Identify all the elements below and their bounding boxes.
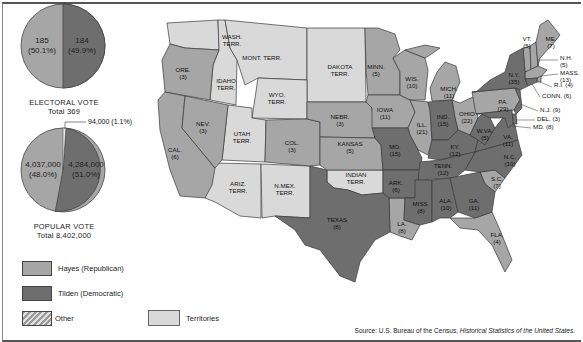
state-label-mich: MICH.(11) <box>440 85 458 99</box>
state-label-sc: S.C.(7) <box>491 175 503 189</box>
state-label-va: VA.(11) <box>503 133 514 147</box>
state-label-me: ME.(7) <box>545 35 556 49</box>
state-name: GA. <box>469 197 480 204</box>
state-votes: TERR. <box>274 189 295 196</box>
state-name: MISS. <box>413 200 430 207</box>
state-label-tenn: TENN.(12) <box>434 162 453 176</box>
state-votes: (5) <box>367 70 385 77</box>
state-label-ky: KY.(12) <box>449 143 460 157</box>
state-label-ga: GA.(11) <box>469 197 480 211</box>
state-votes: TERR. <box>328 70 353 77</box>
state-votes: (8) <box>397 227 406 234</box>
state-votes: (8) <box>413 207 430 214</box>
state-name: INDIAN <box>346 171 367 178</box>
state-label-wyo: WYO.TERR. <box>268 91 287 105</box>
state-label-ark: ARK.(6) <box>389 179 403 193</box>
state-votes: TERR. <box>229 187 248 194</box>
state-name: TENN. <box>434 162 453 169</box>
state-name: FLA. <box>490 231 503 238</box>
state-label-la: LA.(8) <box>397 220 406 234</box>
state-name: W.VA. <box>477 127 494 134</box>
state-votes: (5) <box>477 134 494 141</box>
state-label-idaho: IDAHOTERR. <box>216 77 236 91</box>
state-label-nev: NEV.(3) <box>196 120 210 134</box>
state-label-ind: IND.(15) <box>437 113 449 127</box>
state-name: WYO. <box>268 91 287 98</box>
state-votes: (22) <box>459 117 475 124</box>
state-label-iowa: IOWA(11) <box>377 106 393 120</box>
source-note: Source: U.S. Bureau of the Census, Histo… <box>355 327 575 334</box>
source-title: Historical Statistics of the United Stat… <box>460 327 575 334</box>
state-label-wash: WASH.TERR. <box>222 33 242 47</box>
state-name: DAKOTA <box>328 63 353 70</box>
state-votes: (3) <box>331 120 350 127</box>
state-name: ARIZ. <box>229 180 248 187</box>
state-name: MASS. <box>560 69 579 76</box>
state-votes: (3) <box>285 146 299 153</box>
callout-ri: R.I. (4) <box>554 81 573 88</box>
state-votes: TERR. <box>346 178 367 185</box>
state-name: WIS. <box>405 75 418 82</box>
state-votes: (4) <box>490 238 503 245</box>
state-name: VT. <box>523 35 532 42</box>
state-votes: (5) <box>523 42 532 49</box>
state-votes: (12) <box>449 150 460 157</box>
source-prefix: Source: U.S. Bureau of the Census, <box>355 327 460 334</box>
state-votes: (8) <box>327 223 347 230</box>
state-name: VA. <box>503 133 514 140</box>
state-name: IND. <box>437 113 449 120</box>
state-votes: (5) <box>560 61 572 68</box>
state-name: CAL. <box>168 146 182 153</box>
state-label-miss: MISS.(8) <box>413 200 430 214</box>
state-votes: (5) <box>337 147 362 154</box>
state-votes: (10) <box>504 160 516 167</box>
state-votes: TERR. <box>268 98 287 105</box>
state-name: IOWA <box>377 106 393 113</box>
state-label-minn: MINN.(5) <box>367 63 385 77</box>
state-name: MICH. <box>440 85 458 92</box>
state-label-fla: FLA.(4) <box>490 231 503 245</box>
callout-md: MD. (8) <box>533 123 554 130</box>
state-votes: (3) <box>196 127 210 134</box>
state-name: KANSAS <box>337 140 362 147</box>
state-votes: (29) <box>497 105 508 112</box>
state-label-dakota: DAKOTATERR. <box>328 63 353 77</box>
state-name: COL. <box>285 139 299 146</box>
state-label-ore: ORE.(3) <box>175 66 190 80</box>
state-votes: (6) <box>168 153 182 160</box>
state-label-utah: UTAHTERR. <box>233 130 252 144</box>
state-label-kansas: KANSAS(5) <box>337 140 362 154</box>
state-name: ORE. <box>175 66 190 73</box>
state-votes: (11) <box>377 113 393 120</box>
state-label-wva: W.VA.(5) <box>477 127 494 141</box>
state-name: WASH. <box>222 33 242 40</box>
callout-conn: CONN. (6) <box>542 92 571 99</box>
state-votes: (11) <box>503 140 514 147</box>
state-name: OHIO <box>459 110 475 117</box>
mont-terr <box>225 20 307 85</box>
state-label-ill: ILL.(21) <box>416 121 427 135</box>
state-label-ariz: ARIZ.TERR. <box>229 180 248 194</box>
state-label-mont: MONT. TERR. <box>242 54 281 61</box>
state-votes: (6) <box>389 186 403 193</box>
state-name: N.Y. <box>508 71 519 78</box>
state-name: MINN. <box>367 63 385 70</box>
state-label-cal: CAL.(6) <box>168 146 182 160</box>
state-votes: (7) <box>545 42 556 49</box>
state-name: N.H. <box>560 54 572 61</box>
state-label-ala: ALA.(10) <box>439 197 452 211</box>
state-name: N.C. <box>504 153 516 160</box>
state-name: IDAHO <box>216 77 236 84</box>
state-label-ny: N.Y.(35) <box>508 71 519 85</box>
state-name: N.MEX. <box>274 182 295 189</box>
state-name: MONT. TERR. <box>242 54 281 61</box>
state-name: ARK. <box>389 179 403 186</box>
state-label-nc: N.C.(10) <box>504 153 516 167</box>
state-label-col: COL.(3) <box>285 139 299 153</box>
state-label-wis: WIS.(10) <box>405 75 418 89</box>
state-votes: (10) <box>405 82 418 89</box>
state-name: ILL. <box>416 121 427 128</box>
state-label-indian: INDIANTERR. <box>346 171 367 185</box>
state-name: LA. <box>397 220 406 227</box>
